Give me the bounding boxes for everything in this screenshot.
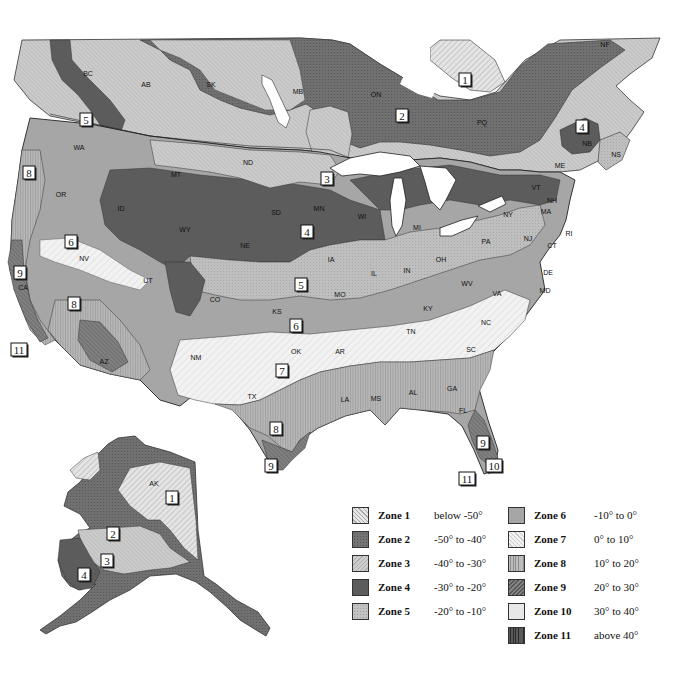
state-label-al: AL xyxy=(409,389,418,396)
state-label-sc: SC xyxy=(466,346,476,353)
legend-item-zone-5: Zone 5-20° to -10° xyxy=(352,599,486,623)
zone-marker-11: 11 xyxy=(11,343,29,358)
state-label-pa: PA xyxy=(482,238,491,245)
legend-swatch-zone-4 xyxy=(352,579,369,596)
state-label-ne: NE xyxy=(240,242,250,249)
legend-zone-name: Zone 5 xyxy=(378,605,434,617)
svg-text:9: 9 xyxy=(480,437,486,449)
state-label-ny: NY xyxy=(503,211,513,218)
legend-zone-name: Zone 1 xyxy=(378,509,434,521)
svg-text:1: 1 xyxy=(169,492,175,504)
state-label-me: ME xyxy=(555,162,566,169)
state-label-ky: KY xyxy=(423,305,433,312)
us-region xyxy=(8,118,575,474)
legend-zone-range: above 40° xyxy=(594,629,638,641)
state-label-mt: MT xyxy=(171,171,182,178)
zone-marker-8: 8 xyxy=(23,166,37,181)
zone-marker-9: 9 xyxy=(14,266,28,281)
state-label-oh: OH xyxy=(436,256,447,263)
zone-marker-2: 2 xyxy=(107,527,121,542)
svg-text:10: 10 xyxy=(489,460,501,472)
zone-marker-10: 10 xyxy=(486,459,504,474)
legend-zone-name: Zone 8 xyxy=(534,557,594,569)
state-label-on: ON xyxy=(371,91,382,98)
zone-marker-11: 11 xyxy=(459,472,477,487)
state-label-ma: MA xyxy=(541,208,552,215)
state-label-pq: PQ xyxy=(477,119,488,127)
zone-marker-8: 8 xyxy=(270,422,284,437)
legend-zone-range: -30° to -20° xyxy=(434,581,486,593)
state-label-tx: TX xyxy=(248,393,257,400)
state-label-ut: UT xyxy=(143,277,153,284)
zone-marker-7: 7 xyxy=(276,364,290,379)
svg-text:9: 9 xyxy=(17,267,23,279)
legend-zone-name: Zone 11 xyxy=(534,629,594,641)
svg-text:3: 3 xyxy=(324,173,330,185)
zone-marker-2: 2 xyxy=(396,109,410,124)
legend-zone-range: 20° to 30° xyxy=(594,581,639,593)
state-label-ab: AB xyxy=(141,81,151,88)
legend-zone-name: Zone 4 xyxy=(378,581,434,593)
legend-item-zone-7: Zone 70° to 10° xyxy=(508,527,639,551)
legend-zone-range: 0° to 10° xyxy=(594,533,633,545)
zone-marker-5: 5 xyxy=(295,278,309,293)
svg-text:3: 3 xyxy=(104,555,110,567)
state-label-va: VA xyxy=(493,290,502,297)
state-label-nj: NJ xyxy=(524,235,533,242)
legend-zone-range: -20° to -10° xyxy=(434,605,486,617)
state-label-nv: NV xyxy=(79,255,89,262)
zone-marker-8: 8 xyxy=(68,297,82,312)
zone-marker-3: 3 xyxy=(101,554,115,569)
legend-item-zone-8: Zone 810° to 20° xyxy=(508,551,639,575)
zone-marker-4: 4 xyxy=(78,568,92,583)
legend-swatch-zone-3 xyxy=(352,555,369,572)
state-label-wi: WI xyxy=(358,213,367,220)
legend-item-zone-4: Zone 4-30° to -20° xyxy=(352,575,486,599)
state-label-il: IL xyxy=(371,270,377,277)
state-label-nf: NF xyxy=(600,41,609,48)
legend-column-2: Zone 6-10° to 0°Zone 70° to 10°Zone 810°… xyxy=(508,503,639,647)
svg-text:6: 6 xyxy=(68,236,74,248)
legend-swatch-zone-6 xyxy=(508,507,525,524)
state-label-md: MD xyxy=(540,287,551,294)
state-label-wa: WA xyxy=(73,144,84,151)
legend-zone-range: -10° to 0° xyxy=(594,509,637,521)
state-label-wv: WV xyxy=(461,280,473,287)
legend-zone-name: Zone 2 xyxy=(378,533,434,545)
state-label-fl: FL xyxy=(459,407,467,414)
svg-text:4: 4 xyxy=(81,569,87,581)
legend-item-zone-9: Zone 920° to 30° xyxy=(508,575,639,599)
state-label-ok: OK xyxy=(291,348,301,355)
legend-zone-name: Zone 6 xyxy=(534,509,594,521)
legend-swatch-zone-1 xyxy=(352,507,369,524)
state-label-or: OR xyxy=(56,191,67,198)
state-label-nc: NC xyxy=(481,319,491,326)
legend-swatch-zone-8 xyxy=(508,555,525,572)
state-label-co: CO xyxy=(210,296,221,303)
legend: Zone 1below -50°Zone 2-50° to -40°Zone 3… xyxy=(352,503,672,653)
svg-text:8: 8 xyxy=(273,423,279,435)
state-label-ns: NS xyxy=(611,151,621,158)
svg-text:2: 2 xyxy=(399,110,405,122)
state-label-nb: NB xyxy=(582,140,592,147)
state-label-mi: MI xyxy=(413,224,421,231)
zone-marker-4: 4 xyxy=(301,225,315,240)
legend-zone-name: Zone 9 xyxy=(534,581,594,593)
state-label-ms: MS xyxy=(371,395,382,402)
zone-marker-4: 4 xyxy=(576,120,590,135)
state-label-ca: CA xyxy=(18,284,28,291)
state-label-mo: MO xyxy=(334,291,346,298)
state-label-wy: WY xyxy=(179,226,191,233)
state-label-id: ID xyxy=(118,205,125,212)
legend-column-1: Zone 1below -50°Zone 2-50° to -40°Zone 3… xyxy=(352,503,486,623)
state-label-in: IN xyxy=(404,267,411,274)
state-label-ct: CT xyxy=(547,242,557,249)
legend-swatch-zone-2 xyxy=(352,531,369,548)
legend-swatch-zone-9 xyxy=(508,579,525,596)
state-label-bc: BC xyxy=(83,70,93,77)
svg-text:5: 5 xyxy=(83,114,89,126)
legend-zone-range: 30° to 40° xyxy=(594,605,639,617)
legend-item-zone-10: Zone 1030° to 40° xyxy=(508,599,639,623)
svg-text:9: 9 xyxy=(268,460,274,472)
svg-text:8: 8 xyxy=(26,167,32,179)
